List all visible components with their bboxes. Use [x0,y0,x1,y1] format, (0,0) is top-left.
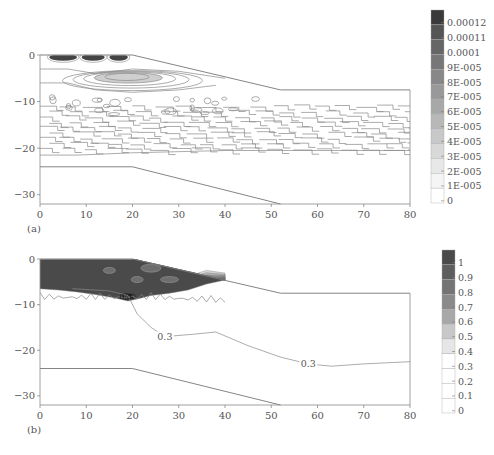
x-tick-label: 40 [219,209,232,220]
colorbar-label: 0.0001 [447,47,480,58]
contour-line [222,97,227,100]
panel-label: (b) [27,424,41,435]
y-tick-label: −30 [14,189,35,200]
colorbar-label: 0.00012 [447,17,486,28]
x-tick-label: 70 [357,209,370,220]
colorbar-label: 0 [447,195,453,206]
y-tick-label: −20 [14,345,35,356]
colorbar-label: 0.4 [458,346,473,357]
x-tick-label: 60 [311,410,324,421]
contour-line [110,99,121,106]
plot-area [40,259,410,366]
colorbar: 0.000120.000110.00019E-0058E-0057E-0056E… [431,10,486,206]
contour-line [190,98,195,102]
contour-line [161,110,169,114]
colorbar-label: 0.3 [458,361,473,372]
panel-b: 0.30.30.3010203040506070800−10−20−30(b)1… [14,250,473,435]
lower-boundary-line [40,167,281,204]
contour-line [40,148,429,155]
colorbar-label: 0 [458,405,464,416]
x-tick-label: 20 [126,410,139,421]
contour-line [72,100,80,106]
contour-line [103,104,110,107]
contour-line [212,101,219,105]
contour-label: 0.3 [157,331,172,342]
contour-line [131,277,143,283]
contour-label: 0.3 [119,292,132,301]
contour-line [103,267,115,273]
colorbar: 10.90.80.70.60.50.40.30.20.10 [442,250,473,416]
contour-line [40,126,429,133]
colorbar-label: 0.7 [458,302,473,313]
colorbar-label: 4E-005 [447,136,482,147]
contour-line [212,108,223,114]
x-tick-label: 80 [404,410,417,421]
contour-label: 0.3 [301,358,316,369]
x-tick-label: 50 [265,209,278,220]
contour-line [161,277,179,283]
figure: 010203040506070800−10−20−30(a)0.000120.0… [0,0,494,455]
plot-area [40,52,432,155]
colorbar-label: 0.00011 [447,32,486,43]
x-tick-label: 0 [37,209,43,220]
panel-label: (a) [27,223,41,234]
colorbar-label: 9E-005 [447,62,482,73]
contour-line [204,98,211,104]
x-tick-label: 50 [265,410,278,421]
colorbar-label: 0.9 [458,272,473,283]
colorbar-label: 2E-005 [447,166,482,177]
y-tick-label: −20 [14,143,35,154]
colorbar-label: 0.5 [458,331,473,342]
colorbar-label: 8E-005 [447,77,482,88]
y-tick-label: 0 [29,254,35,265]
y-tick-label: −10 [14,299,35,310]
contour-line [105,73,149,80]
contour-line [66,103,70,108]
contour-line [40,151,410,156]
x-tick-label: 10 [80,209,93,220]
y-tick-label: −30 [14,390,35,401]
colorbar-label: 7E-005 [447,91,482,102]
contour-line [252,97,260,102]
y-tick-label: −10 [14,96,35,107]
x-tick-label: 70 [357,410,370,421]
x-tick-label: 0 [37,410,43,421]
panel-a: 010203040506070800−10−20−30(a)0.000120.0… [14,10,486,234]
colorbar-label: 6E-005 [447,106,482,117]
y-tick-label: 0 [29,50,35,61]
x-tick-label: 10 [80,410,93,421]
colorbar-label: 1 [458,257,464,268]
colorbar-label: 0.2 [458,376,473,387]
contour-line [125,98,132,102]
colorbar-label: 5E-005 [447,121,482,132]
x-tick-label: 40 [219,410,232,421]
x-tick-label: 30 [172,209,185,220]
colorbar-label: 0.1 [458,390,473,401]
contour-line [173,97,179,102]
colorbar-label: 0.6 [458,316,473,327]
colorbar-label: 3E-005 [447,151,482,162]
x-tick-label: 80 [404,209,417,220]
contour-line [108,113,120,116]
lower-boundary-line [40,369,281,406]
x-tick-label: 60 [311,209,324,220]
colorbar-label: 1E-005 [447,180,482,191]
colorbar-label: 0.8 [458,287,473,298]
x-tick-label: 30 [172,410,185,421]
x-tick-label: 20 [126,209,139,220]
